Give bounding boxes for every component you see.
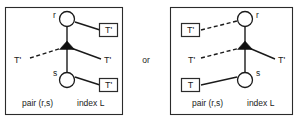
panel-right-caption-pair: pair (r,s) — [192, 98, 223, 108]
panel-left-box-bottom-label: T' — [105, 80, 112, 90]
panel-right-caption-index: index L — [247, 98, 275, 108]
panel-left-box-top-label: T' — [105, 25, 112, 35]
panel-left-caption-index: index L — [77, 98, 105, 108]
panel-right-box-bottom-label: T — [188, 80, 194, 90]
panel-left-node-s-circle — [60, 73, 75, 88]
panel-right-solid-edge-label: T' — [278, 55, 285, 65]
panel-left-node-s-label: s — [53, 68, 57, 78]
panel-left-caption-pair: pair (r,s) — [22, 98, 53, 108]
panel-left: r s T' T' T' T' pair (r,s) index L — [6, 8, 123, 115]
panel-right-node-r-label: r — [256, 10, 259, 20]
panel-left-node-r-label: r — [53, 10, 56, 20]
panel-right-dashed-edge-label: T' — [188, 55, 195, 65]
panel-left-solid-edge-label: T' — [104, 55, 111, 65]
panel-right-node-r-circle — [238, 12, 253, 27]
panel-right-node-s-label: s — [256, 68, 260, 78]
figure-root: r s T' T' T' T' pair (r,s) index L or — [0, 0, 299, 129]
connector-or-label: or — [142, 55, 150, 65]
panel-right: r s T' T T' T' pair (r,s) index L — [171, 8, 293, 115]
panel-right-box-top-label: T' — [187, 25, 194, 35]
panel-right-node-s-circle — [238, 73, 253, 88]
panel-left-dashed-edge-label: T' — [14, 55, 21, 65]
panel-left-node-r-circle — [60, 12, 75, 27]
